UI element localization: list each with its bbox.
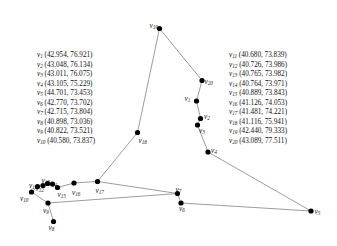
coordinate-list-left-row: v3 (43.011, 76.075) bbox=[37, 70, 95, 80]
coordinate-value: (40.889, 73.843) bbox=[237, 89, 287, 97]
graph-node-v16[interactable] bbox=[71, 180, 76, 185]
coordinate-list-right-row: v13 (40.765, 73.982) bbox=[229, 70, 287, 80]
figure-canvas: v1 (42.954, 76.921)v2 (43.048, 76.134)v3… bbox=[0, 0, 337, 246]
graph-edge bbox=[181, 203, 311, 211]
coordinate-value: (43.089, 77.511) bbox=[237, 137, 286, 145]
graph-node-v18[interactable] bbox=[135, 130, 140, 135]
coordinate-value: (41.481, 74.221) bbox=[237, 108, 287, 116]
graph-edge bbox=[98, 182, 178, 194]
graph-node-v5[interactable] bbox=[308, 208, 313, 213]
graph-node-label-v9: v9 bbox=[43, 207, 49, 215]
coordinate-list-left-row: v2 (43.048, 76.134) bbox=[37, 61, 95, 71]
coordinate-list-right: v11 (40.680, 73.839)v12 (40.726, 73.986)… bbox=[229, 51, 287, 146]
coordinate-list-left-row: v1 (42.954, 76.921) bbox=[37, 51, 95, 61]
coordinate-value: (41.126, 74.053) bbox=[237, 99, 287, 107]
coordinate-value: (40.580, 73.837) bbox=[45, 137, 95, 145]
coordinate-list-left: v1 (42.954, 76.921)v2 (43.048, 76.134)v3… bbox=[37, 51, 95, 146]
graph-node-label-v19: v19 bbox=[150, 22, 158, 30]
coordinate-value: (42.954, 76.921) bbox=[43, 51, 93, 59]
graph-node-label-v20: v20 bbox=[205, 78, 213, 86]
graph-node-label-v17: v17 bbox=[96, 187, 104, 195]
coordinate-value: (40.898, 73.036) bbox=[43, 118, 93, 126]
coordinate-value: (41.116, 75.941) bbox=[237, 118, 286, 126]
graph-node-label-v1: v1 bbox=[185, 95, 191, 103]
coordinate-list-right-row: v12 (40.726, 73.986) bbox=[229, 61, 287, 71]
graph-node-v9[interactable] bbox=[45, 200, 50, 205]
coordinate-list-right-row: v18 (41.116, 75.941) bbox=[229, 118, 287, 128]
graph-edge bbox=[197, 81, 203, 102]
graph-node-label-v4: v4 bbox=[211, 147, 217, 155]
coordinate-list-left-row: v8 (40.898, 73.036) bbox=[37, 118, 95, 128]
coordinate-list-left-row: v6 (42.770, 73.702) bbox=[37, 99, 95, 109]
coordinate-value: (40.765, 73.982) bbox=[237, 70, 287, 78]
graph-edge bbox=[160, 29, 203, 81]
coordinate-value: (44.701, 73.453) bbox=[43, 89, 93, 97]
graph-node-label-v5: v5 bbox=[315, 208, 321, 216]
graph-node-label-v2: v2 bbox=[204, 113, 210, 121]
coordinate-list-right-row: v17 (41.481, 74.221) bbox=[229, 108, 287, 118]
graph-node-label-v8: v8 bbox=[49, 224, 55, 232]
graph-edge bbox=[98, 133, 138, 182]
graph-edge bbox=[197, 101, 201, 119]
coordinate-value: (43.048, 76.134) bbox=[43, 61, 93, 69]
graph-node-label-v10: v10 bbox=[20, 195, 28, 203]
graph-node-v4[interactable] bbox=[205, 149, 210, 154]
coordinate-list-left-row: v7 (42.715, 73.804) bbox=[37, 108, 95, 118]
coordinate-value: (42.770, 73.702) bbox=[43, 99, 93, 107]
coordinate-list-right-row: v20 (43.089, 77.511) bbox=[229, 137, 287, 147]
graph-edge bbox=[48, 194, 178, 204]
coordinate-list-right-row: v19 (42.440, 79.333) bbox=[229, 127, 287, 137]
coordinate-list-left-row: v4 (43.105, 75.229) bbox=[37, 80, 95, 90]
graph-edge bbox=[208, 152, 311, 211]
graph-edge bbox=[32, 192, 49, 203]
coordinate-list-left-row: v9 (40.822, 73.521) bbox=[37, 127, 95, 137]
coordinate-value: (43.105, 75.229) bbox=[43, 80, 93, 88]
graph-node-label-v14: v14 bbox=[49, 180, 57, 188]
coordinate-list-right-row: v16 (41.126, 74.053) bbox=[229, 99, 287, 109]
coordinate-value: (42.440, 79.333) bbox=[237, 127, 287, 135]
graph-node-v1[interactable] bbox=[194, 98, 199, 103]
coordinate-list-right-row: v11 (40.680, 73.839) bbox=[229, 51, 287, 61]
coordinate-value: (40.822, 73.521) bbox=[43, 127, 93, 135]
graph-edge bbox=[74, 182, 98, 184]
coordinate-list-left-row: v5 (44.701, 73.453) bbox=[37, 89, 95, 99]
graph-node-label-v15: v15 bbox=[58, 191, 66, 199]
graph-node-v2[interactable] bbox=[198, 116, 203, 121]
graph-node-label-v7: v7 bbox=[176, 186, 182, 194]
coordinate-list-right-row: v14 (40.764, 73.971) bbox=[229, 80, 287, 90]
graph-node-label-v6: v6 bbox=[179, 205, 185, 213]
coordinate-value: (43.011, 76.075) bbox=[43, 70, 92, 78]
coordinate-value: (40.726, 73.986) bbox=[237, 61, 287, 69]
graph-node-label-v18: v18 bbox=[139, 137, 147, 145]
graph-node-label-v16: v16 bbox=[72, 189, 80, 197]
coordinate-value: (42.715, 73.804) bbox=[43, 108, 93, 116]
coordinate-list-left-row: v10 (40.580, 73.837) bbox=[37, 137, 95, 147]
coordinate-value: (40.764, 73.971) bbox=[237, 80, 287, 88]
graph-node-v17[interactable] bbox=[95, 179, 100, 184]
graph-node-label-v3: v3 bbox=[199, 127, 205, 135]
coordinate-value: (40.680, 73.839) bbox=[237, 51, 287, 59]
graph-node-label-v12: v12 bbox=[36, 185, 44, 193]
coordinate-list-right-row: v15 (40.889, 73.843) bbox=[229, 89, 287, 99]
graph-edge bbox=[138, 29, 160, 133]
